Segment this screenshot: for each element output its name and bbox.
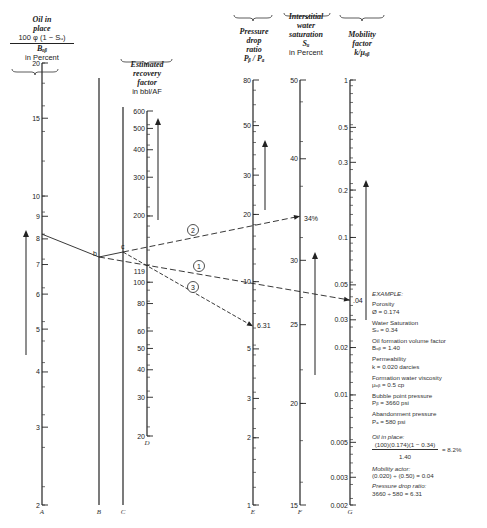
tick-label: 300 xyxy=(133,174,145,181)
point-c-label: c xyxy=(121,243,125,250)
tick-label: 80 xyxy=(137,300,145,307)
axis-a-formula-numerator: 100 φ (1 − Sᵤ) xyxy=(10,33,74,44)
calc-oil-denominator: 1.40 xyxy=(372,453,438,460)
axis-c-letter: C xyxy=(121,508,126,516)
axis-e-title-line2: drop xyxy=(234,36,274,45)
calc-oil-numerator: (100)(0.174)(1 − 0.34) xyxy=(372,441,438,450)
example-label: Bubble point pressure xyxy=(372,392,487,399)
tick-label: 0.5 xyxy=(338,124,348,131)
tick-label: 10 xyxy=(32,193,40,200)
dashed-line-2 xyxy=(123,216,300,252)
tick-label: 30 xyxy=(290,257,298,264)
tick-label: 8 xyxy=(36,235,40,242)
axis-f-title-line1: Interstitial xyxy=(282,12,330,21)
header-brace xyxy=(340,15,384,21)
axis-a-title-line2: place xyxy=(10,24,74,33)
axis-f-title-line2: water xyxy=(282,21,330,30)
tick-label: 50 xyxy=(290,77,298,84)
tick-label: 0.02 xyxy=(334,344,348,351)
direction-arrow-head xyxy=(363,180,369,187)
tick-label: 30 xyxy=(137,394,145,401)
example-value: Pᵦ = 3660 psi xyxy=(372,399,487,406)
value-34-percent-label: 34% xyxy=(304,215,318,222)
tick-label: 20 xyxy=(290,400,298,407)
example-value: Ø = 0.174 xyxy=(372,308,487,315)
axis-e-header: Pressure drop ratio Pᵦ / Pₐ xyxy=(234,27,274,63)
tick-label: 0.05 xyxy=(334,281,348,288)
tick-label: 500 xyxy=(133,125,145,132)
calc-mobility-label: Mobility actor: xyxy=(372,465,487,472)
example-label: Water Saturation xyxy=(372,319,487,326)
axis-g-letter: G xyxy=(347,508,352,516)
axis-f-letter: F xyxy=(297,508,303,516)
direction-arrow-head xyxy=(262,140,268,147)
tick-label: 0.002 xyxy=(330,502,348,509)
tick-label: 5 xyxy=(36,326,40,333)
axis-f-unit: in Percent xyxy=(282,48,330,57)
tick-label: 4 xyxy=(36,368,40,375)
calc-oil-label: Oil in place: xyxy=(372,433,487,440)
tick-label: 0.2 xyxy=(338,187,348,194)
axis-e-title-line3: ratio xyxy=(234,45,274,54)
example-value: Bₒᵦ = 1.40 xyxy=(372,344,487,351)
axis-a-header: Oil in place 100 φ (1 − Sᵤ) Bₒᵦ in Perce… xyxy=(10,15,74,62)
tick-label: 9 xyxy=(36,213,40,220)
axis-g-formula: k/μₒᵦ xyxy=(340,48,384,57)
header-brace xyxy=(234,15,272,21)
tick-label: 15 xyxy=(32,115,40,122)
tick-label: 5 xyxy=(247,345,251,352)
line-3-arrowhead xyxy=(247,321,253,326)
tick-label: 40 xyxy=(290,155,298,162)
tick-label: 30 xyxy=(243,172,251,179)
calc-oil-result: = 8.2% xyxy=(442,446,461,453)
tick-label: 40 xyxy=(137,366,145,373)
example-water-viscosity: Formation water viscosityμₒᵦ = 0.5 cp xyxy=(372,374,487,389)
direction-arrow-head xyxy=(312,252,318,259)
tick-label: 25 xyxy=(290,321,298,328)
example-value: Pₐ = 580 psi xyxy=(372,418,487,425)
example-value: Sᵤ = 0.34 xyxy=(372,326,487,333)
line-number-2: 2 xyxy=(191,227,195,234)
example-porosity: PorosityØ = 0.174 xyxy=(372,300,487,315)
example-label: Permeability xyxy=(372,355,487,362)
tick-label: 0.005 xyxy=(330,439,348,446)
calc-pdr: 3660 ÷ 580 = 6.31 xyxy=(372,490,487,497)
example-label: Porosity xyxy=(372,300,487,307)
tick-label: 400 xyxy=(133,146,145,153)
example-panel: EXAMPLE: PorosityØ = 0.174 Water Saturat… xyxy=(372,290,487,497)
tick-label: 0.1 xyxy=(338,234,348,241)
tick-label: 1 xyxy=(344,77,348,84)
axis-d-unit: in bbl/AF xyxy=(118,87,176,96)
point-b-label: b xyxy=(93,250,97,257)
axis-g-title-line1: Mobility xyxy=(340,30,384,39)
calc-oil-fraction: (100)(0.174)(1 − 0.34) 1.40 = 8.2% xyxy=(372,441,487,463)
tick-label: 50 xyxy=(243,122,251,129)
tick-label: 50 xyxy=(137,345,145,352)
tick-label: 6 xyxy=(36,291,40,298)
tick-label: 3 xyxy=(247,395,251,402)
example-oil-fvf: Oil formation volume factorBₒᵦ = 1.40 xyxy=(372,337,487,352)
axis-a-unit: in Percent xyxy=(10,53,74,62)
example-abandonment: Abandonment pressurePₐ = 580 psi xyxy=(372,410,487,425)
tick-label: 200 xyxy=(133,212,145,219)
direction-arrow-head xyxy=(23,230,29,237)
line-number-3: 3 xyxy=(191,284,195,291)
tick-label: 3 xyxy=(36,424,40,431)
axis-d-letter: D xyxy=(143,439,149,447)
tick-label: 20 xyxy=(243,211,251,218)
line-1-arrowhead xyxy=(344,297,350,302)
solid-line-a-to-b xyxy=(42,234,99,257)
axis-g-title-line2: factor xyxy=(340,39,384,48)
direction-arrow-head xyxy=(155,118,161,125)
calc-mobility: (0.020) ÷ (0.50) = 0.04 xyxy=(372,472,487,479)
tick-label: 60 xyxy=(137,328,145,335)
axis-b-letter: B xyxy=(97,508,102,516)
header-brace xyxy=(12,69,58,75)
tick-label: 600 xyxy=(133,108,145,115)
tick-label: 0.01 xyxy=(334,391,348,398)
axis-e-title-line1: Pressure xyxy=(234,27,274,36)
example-permeability: Permeabilityk = 0.020 darcies xyxy=(372,355,487,370)
tick-label: 2 xyxy=(247,434,251,441)
example-value: μₒᵦ = 0.5 cp xyxy=(372,381,487,388)
example-label: Formation water viscosity xyxy=(372,374,487,381)
